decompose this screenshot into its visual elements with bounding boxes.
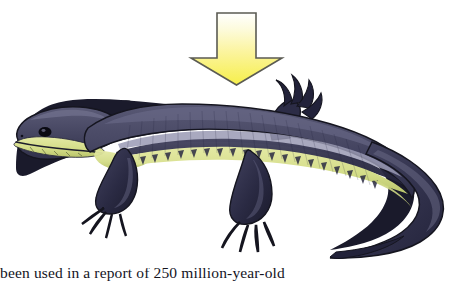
figure-container — [0, 0, 473, 268]
down-arrow-shape — [191, 13, 282, 85]
salamander-body-group — [14, 75, 443, 258]
caption-text: been used in a report of 250 million-yea… — [0, 268, 473, 281]
down-arrow-icon — [191, 13, 282, 85]
hind-limb — [222, 150, 274, 252]
page-root: been used in a report of 250 million-yea… — [0, 0, 473, 281]
caption-clip: been used in a report of 250 million-yea… — [0, 268, 473, 281]
salamander-eye — [39, 127, 52, 137]
salamander-figure-svg — [0, 0, 473, 268]
